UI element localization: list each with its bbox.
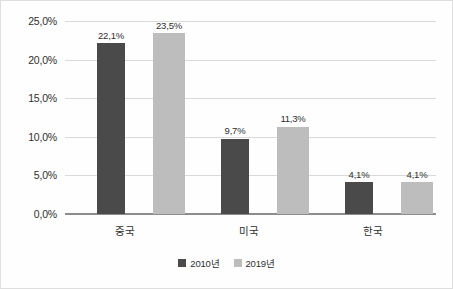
bar-korea-2010 bbox=[345, 182, 373, 214]
bar-value-label-china-2019: 23,5% bbox=[156, 20, 182, 31]
legend-label-2010: 2010년 bbox=[190, 256, 219, 270]
y-tick-label: 20,0% bbox=[0, 54, 57, 66]
bar-group-china: 22,1% 23,5% bbox=[89, 21, 189, 214]
bar-usa-2019 bbox=[277, 127, 309, 214]
bar-usa-2010 bbox=[221, 139, 249, 214]
legend-item-2010[interactable]: 2010년 bbox=[178, 256, 219, 270]
y-tick-label: 25,0% bbox=[0, 15, 57, 27]
bar-china-2019 bbox=[153, 33, 185, 214]
bar-chart: 25,0% 20,0% 15,0% 10,0% 5,0% 0,0% 22,1% … bbox=[0, 0, 453, 289]
bar-korea-2019 bbox=[401, 182, 433, 214]
plot-area: 22,1% 23,5% 9,7% 11,3% 4,1% 4,1% bbox=[65, 21, 436, 214]
bar-value-label-korea-2010: 4,1% bbox=[349, 169, 370, 180]
bar-group-korea: 4,1% 4,1% bbox=[337, 21, 437, 214]
category-label-china: 중국 bbox=[115, 223, 135, 238]
y-tick-label: 0,0% bbox=[0, 208, 57, 220]
legend-swatch-icon-2010 bbox=[178, 259, 186, 267]
y-tick-label: 15,0% bbox=[0, 92, 57, 104]
legend-swatch-icon-2019 bbox=[234, 259, 242, 267]
legend-item-2019[interactable]: 2019년 bbox=[234, 256, 275, 270]
bar-value-label-usa-2010: 9,7% bbox=[225, 125, 246, 136]
legend: 2010년 2019년 bbox=[1, 256, 452, 270]
bar-value-label-china-2010: 22,1% bbox=[98, 30, 124, 41]
y-tick-label: 5,0% bbox=[0, 169, 57, 181]
bar-value-label-usa-2019: 11,3% bbox=[280, 113, 305, 124]
category-label-usa: 미국 bbox=[239, 223, 259, 238]
bar-china-2010 bbox=[97, 43, 125, 214]
category-label-korea: 한국 bbox=[363, 223, 383, 238]
y-tick-label: 10,0% bbox=[0, 131, 57, 143]
bar-value-label-korea-2019: 4,1% bbox=[407, 169, 428, 180]
legend-label-2019: 2019년 bbox=[246, 256, 275, 270]
bar-group-usa: 9,7% 11,3% bbox=[213, 21, 313, 214]
